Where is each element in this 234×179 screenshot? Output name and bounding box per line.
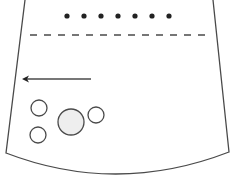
device-diagram [0, 0, 234, 179]
indicator-dot [132, 13, 137, 18]
small-button-top-left [31, 100, 47, 116]
indicator-dot [115, 13, 120, 18]
device-outline [6, 0, 229, 174]
left-arrow-icon [22, 76, 91, 83]
indicator-dot [64, 13, 69, 18]
indicator-dot [81, 13, 86, 18]
indicator-dot [98, 13, 103, 18]
button-cluster [30, 100, 104, 143]
small-button-right [88, 107, 104, 123]
indicator-dots [64, 13, 171, 18]
indicator-dot [166, 13, 171, 18]
indicator-dot [149, 13, 154, 18]
diagram-canvas [0, 0, 234, 179]
large-center-button [58, 109, 84, 135]
small-button-bottom-left [30, 127, 46, 143]
